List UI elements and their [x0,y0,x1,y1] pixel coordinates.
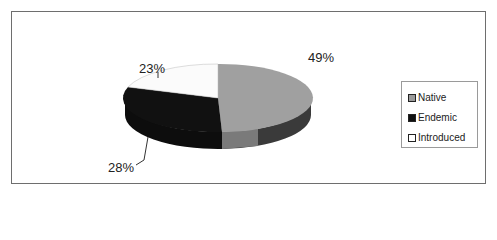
label-native: 49% [308,50,334,65]
legend-item-native: Native [408,92,446,103]
swatch-icon [408,134,416,142]
swatch-icon [408,114,416,122]
legend-item-endemic: Endemic [408,112,457,123]
label-endemic: 28% [108,160,134,175]
legend-item-introduced: Introduced [408,132,465,143]
label-introduced: 23% [139,61,165,76]
swatch-icon [408,94,416,102]
legend: Native Endemic Introduced [401,81,478,148]
